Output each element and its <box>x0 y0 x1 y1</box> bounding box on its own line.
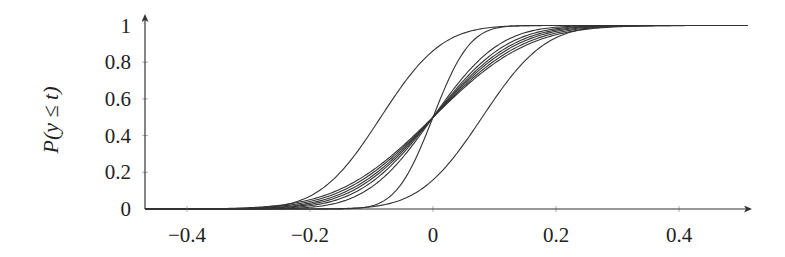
x-tick-label: −0.2 <box>291 223 329 247</box>
y-tick-label: 0.2 <box>105 160 131 184</box>
cdf-curve-curve-6 <box>145 26 748 210</box>
y-tick-label: 0 <box>121 197 132 221</box>
cdf-curve-curve-5 <box>145 26 748 210</box>
x-tick-label: −0.4 <box>168 223 207 247</box>
y-axis-label: P(y ≤ t) <box>38 86 63 154</box>
cdf-curve-curve-2 <box>145 26 748 210</box>
axis-ticks <box>142 62 679 212</box>
cdf-curve-curve-4 <box>145 26 748 210</box>
y-tick-label: 1 <box>121 14 132 38</box>
y-tick-label: 0.4 <box>105 124 132 148</box>
y-tick-label: 0.6 <box>105 87 131 111</box>
cdf-chart: −0.4−0.200.20.4 00.20.40.60.81 P(y ≤ t) <box>0 0 785 257</box>
x-tick-label: 0 <box>428 223 439 247</box>
x-tick-label: 0.2 <box>543 223 569 247</box>
cdf-curve-curve-1 <box>145 26 748 210</box>
cdf-curve-curve-3 <box>145 26 748 210</box>
y-tick-labels: 00.20.40.60.81 <box>105 14 132 222</box>
cdf-curves <box>145 26 748 210</box>
x-tick-label: 0.4 <box>666 223 693 247</box>
x-tick-labels: −0.4−0.200.20.4 <box>168 223 693 247</box>
cdf-curve-curve-8 <box>145 26 748 210</box>
cdf-curve-curve-9 <box>145 26 748 209</box>
cdf-curve-curve-7 <box>145 26 748 210</box>
y-tick-label: 0.8 <box>105 50 131 74</box>
